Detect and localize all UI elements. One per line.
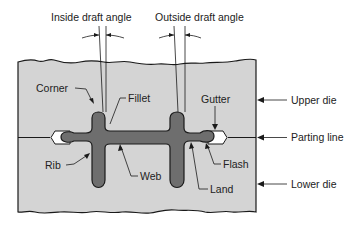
- gutter-label: Gutter: [201, 93, 230, 105]
- forging-die-diagram: [0, 0, 358, 226]
- flash-label: Flash: [223, 158, 249, 170]
- arrowhead: [106, 33, 111, 37]
- upper-die-label: Upper die: [291, 94, 337, 106]
- arrowhead: [257, 181, 264, 187]
- fillet-label: Fillet: [128, 92, 150, 104]
- arrowhead: [169, 33, 174, 37]
- web-label: Web: [140, 170, 161, 182]
- arrowhead: [185, 33, 190, 37]
- outside-draft-angle-label: Outside draft angle: [155, 11, 244, 23]
- arrowhead: [94, 33, 99, 37]
- arrowhead: [257, 97, 264, 103]
- rib-label: Rib: [45, 159, 61, 171]
- land-label: Land: [210, 183, 233, 195]
- lower-die-label: Lower die: [291, 178, 337, 190]
- inside-draft-angle-label: Inside draft angle: [51, 11, 132, 23]
- arrowhead: [257, 135, 264, 141]
- corner-label: Corner: [36, 82, 68, 94]
- parting-line-label: Parting line: [291, 131, 344, 143]
